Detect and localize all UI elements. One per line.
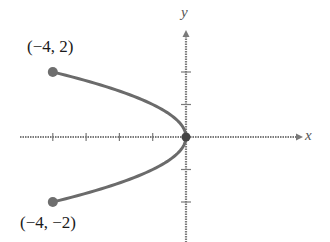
top-point-label: (−4, 2) <box>27 37 73 57</box>
endpoint-dot <box>48 197 58 207</box>
x-axis-label: x <box>305 127 312 144</box>
x-axis-arrow-icon <box>296 134 303 141</box>
endpoint-dot <box>48 67 58 77</box>
bottom-point-label: (−4, −2) <box>20 213 76 233</box>
y-axis-arrow-icon <box>183 30 190 37</box>
y-axis-label: y <box>181 4 188 21</box>
origin-dot <box>182 133 191 142</box>
x-axis <box>20 133 303 141</box>
